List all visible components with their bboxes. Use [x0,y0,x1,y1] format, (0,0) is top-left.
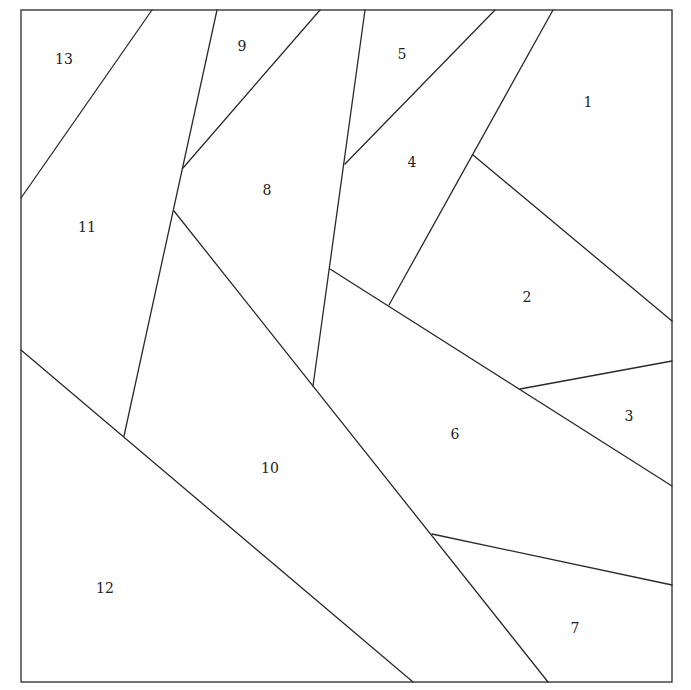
region-label-4: 4 [408,154,417,170]
region-label-9: 9 [238,38,247,54]
region-label-6: 6 [451,426,460,442]
region-label-12: 12 [96,580,114,596]
region-label-2: 2 [523,289,532,305]
region-label-8: 8 [263,182,272,198]
seam-6-7 [432,534,672,585]
seam-9-8 [183,10,320,168]
block-border [21,10,672,682]
region-label-7: 7 [571,620,580,636]
seam-12-11-10 [21,350,413,682]
seam-6-2-3 [330,269,672,486]
seam-5-4 [345,10,495,164]
seam-13-11 [21,10,152,198]
region-label-5: 5 [398,46,407,62]
region-label-3: 3 [625,408,634,424]
seam-10-8-6-7 [174,211,548,682]
region-label-13: 13 [55,51,73,67]
seam-1-2 [473,155,672,321]
quilt-block-diagram: 1 2 3 4 5 6 7 8 9 10 11 12 13 [0,0,691,690]
seam-8-4-6 [313,10,365,386]
seam-11-9-8-10 [124,10,217,436]
region-label-10: 10 [261,460,279,476]
seam-2-3 [520,361,672,389]
region-label-11: 11 [78,219,96,235]
region-label-1: 1 [584,94,593,110]
